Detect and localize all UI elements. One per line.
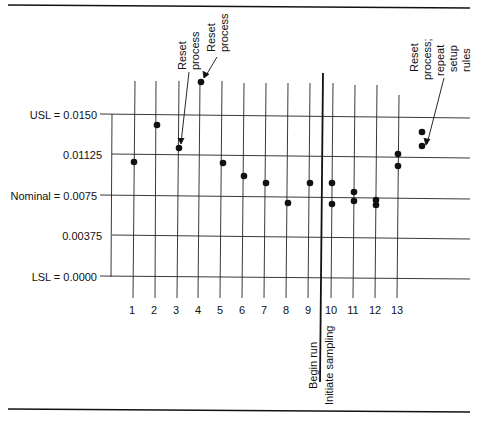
data-points [131,79,426,209]
x-label: 8 [283,304,289,316]
annotation-reset-4-line1: Reset [205,23,217,52]
initiate-sampling-label: Initiate sampling [323,326,335,406]
x-label: 12 [369,304,381,316]
x-label: 2 [151,304,157,316]
data-point [395,151,402,158]
lsl-label: LSL = 0.0000 [32,271,97,283]
x-label: 10 [325,304,337,316]
x-label: 6 [239,304,245,316]
data-point [176,145,183,152]
bottom-rule [8,409,470,412]
data-point [241,173,248,180]
data-point [351,189,358,196]
begin-run-label: Begin run [307,342,319,389]
usl-label: USL = 0.0150 [30,109,97,121]
annotation-reset-13-line4: setup [447,45,459,72]
data-point [351,198,358,205]
data-point [307,180,314,187]
data-point [419,143,426,150]
annotation-reset-13-line1: Reset [408,43,420,72]
annotation-reset-3-line2: process [189,31,201,70]
control-chart: USL = 0.0150 0.01125 Nominal = 0.0075 0.… [0,0,488,421]
data-point [198,79,205,86]
line-00375 [112,235,470,239]
frame-left [111,114,112,277]
annotation-arrows [178,57,444,145]
x-label: 4 [195,304,201,316]
x-label: 5 [217,304,223,316]
x-label: 1 [129,304,135,316]
data-point [285,200,292,207]
annotation-reset-13-line3: repeat [434,45,446,76]
annotation-reset-4-line2: process [218,13,230,52]
x-label: 13 [391,304,403,316]
y-label-00375: 0.00375 [62,230,102,242]
x-label: 9 [305,304,311,316]
x-label: 3 [173,304,179,316]
x-label: 7 [261,304,267,316]
data-point [263,180,270,187]
data-point [154,122,161,129]
x-label: 11 [347,304,358,316]
data-point [220,160,227,167]
data-point [395,163,402,170]
data-point [329,201,336,208]
data-point [131,159,138,166]
x-axis-labels: 1 2 3 4 5 6 7 8 9 10 11 12 13 [129,304,403,316]
line-01125 [112,154,470,158]
data-point [373,202,380,209]
data-point [419,129,426,136]
annotation-reset-13-line5: rules [460,48,472,72]
annotation-reset-3-line1: Reset [176,41,188,70]
nominal-label: Nominal = 0.0075 [10,190,97,202]
data-point [329,180,336,187]
sample-lines [133,81,399,298]
y-label-01125: 0.01125 [63,149,102,161]
top-rule [8,5,470,8]
annotation-reset-13-line2: process; [421,38,433,80]
